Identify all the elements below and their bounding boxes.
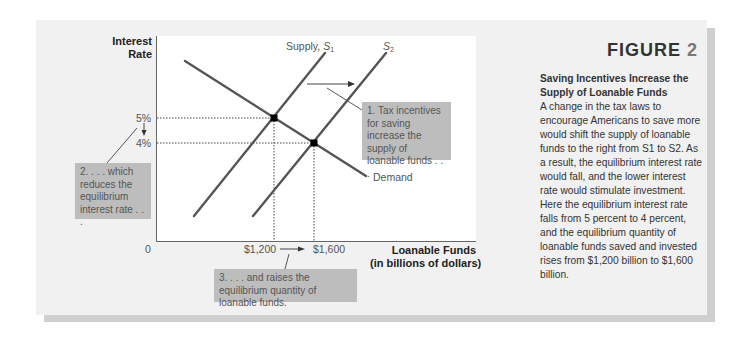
supply-s2-sub: 2 [390, 46, 394, 53]
x-tick-1200: $1,200 [244, 243, 276, 255]
origin-label: 0 [145, 243, 151, 255]
y-axis-title-line1: Interest [100, 35, 152, 48]
leader-line-3 [285, 254, 289, 269]
y-axis-title: Interest Rate [100, 35, 152, 61]
caption-body: A change in the tax laws to encourage Am… [540, 101, 702, 280]
supply-s2-symbol: S [383, 40, 390, 52]
caption-title: Saving Incentives Increase the Supply of… [540, 72, 702, 100]
y-axis-title-line2: Rate [100, 48, 152, 61]
x-axis-title: Loanable Funds (in billions of dollars) [370, 244, 476, 270]
y-tick-4-percent: 4% [136, 137, 151, 149]
figure-title: FIGURE 2 [560, 40, 698, 61]
x-axis-title-line2: (in billions of dollars) [370, 257, 476, 270]
equilibrium-point-initial [271, 115, 278, 122]
y-tick-5-percent: 5% [136, 112, 151, 124]
supply-s1-sub: 1 [330, 46, 334, 53]
quantity-arrow-head [298, 247, 305, 252]
callout-reduces-rate: 2. . . . which reduces the equilibrium i… [75, 163, 151, 219]
demand-label: Demand [373, 171, 413, 183]
figure-caption: Saving Incentives Increase the Supply of… [540, 72, 702, 282]
supply-s2-label: S2 [383, 40, 394, 56]
callout-raises-quantity: 3. . . . and raises the equilibrium quan… [214, 269, 357, 302]
supply-s1-label: Supply, S1 [286, 40, 334, 56]
equilibrium-point-new [311, 140, 318, 147]
figure-label: FIGURE [607, 40, 681, 60]
callout-tax-incentives: 1. Tax incentives for saving increase th… [362, 102, 451, 160]
leader-line-2 [107, 128, 137, 163]
x-tick-1600: $1,600 [313, 243, 345, 255]
x-axis-title-line1: Loanable Funds [370, 244, 476, 257]
supply-s1-prefix: Supply, [286, 40, 323, 52]
figure-number: 2 [687, 40, 698, 60]
rate-down-arrow-head [142, 130, 147, 136]
